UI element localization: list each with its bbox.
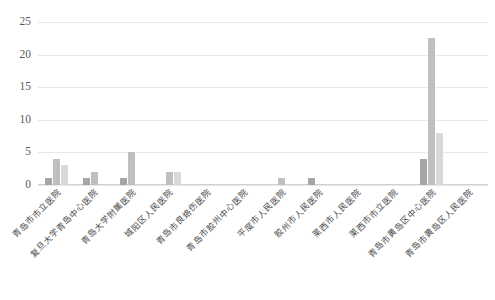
bar-group [76, 22, 114, 185]
bar [45, 178, 52, 185]
x-axis-labels: 青岛市市立医院复旦大学青岛中心医院青岛大学附属医院城阳区人民医院青岛市良烙伤医院… [38, 186, 488, 298]
bar [53, 159, 60, 185]
x-axis-label-slot: 青岛大学附属医院 [113, 186, 151, 298]
x-axis-label-slot: 胶州市人民医院 [301, 186, 339, 298]
bar [278, 178, 285, 185]
y-axis-tick-label: 10 [20, 114, 32, 126]
y-axis-tick-label: 25 [20, 16, 32, 28]
plot-area: 0510152025 [38, 22, 488, 185]
bar [308, 178, 315, 185]
y-axis-tick-label: 15 [20, 81, 32, 93]
bar-group [38, 22, 76, 185]
x-axis-label-slot: 平度市人民医院 [263, 186, 301, 298]
y-axis-tick-label: 0 [25, 179, 31, 191]
bar-group [338, 22, 376, 185]
y-axis-tick-label: 20 [20, 49, 32, 61]
bar [91, 172, 98, 185]
bar [174, 172, 181, 185]
bar [436, 133, 443, 185]
bar [166, 172, 173, 185]
bar-group [226, 22, 264, 185]
bar [128, 152, 135, 185]
bar-group [413, 22, 451, 185]
y-axis-tick-label: 5 [25, 147, 31, 159]
bar-group [263, 22, 301, 185]
bar-groups [38, 22, 488, 185]
bar [83, 178, 90, 185]
bar [428, 38, 435, 185]
bar-group [301, 22, 339, 185]
bar-group [451, 22, 489, 185]
bar-group [151, 22, 189, 185]
bar-chart: 0510152025 青岛市市立医院复旦大学青岛中心医院青岛大学附属医院城阳区人… [0, 0, 495, 300]
bar-group [376, 22, 414, 185]
x-axis-label-slot: 青岛市胶州中心医院 [226, 186, 264, 298]
bar [61, 165, 68, 185]
bar-group [188, 22, 226, 185]
bar [420, 159, 427, 185]
bar-group [113, 22, 151, 185]
x-axis-label-slot: 青岛市黄岛区人民医院 [451, 186, 489, 298]
bar [120, 178, 127, 185]
x-axis-label-slot: 莱西市人民医院 [338, 186, 376, 298]
